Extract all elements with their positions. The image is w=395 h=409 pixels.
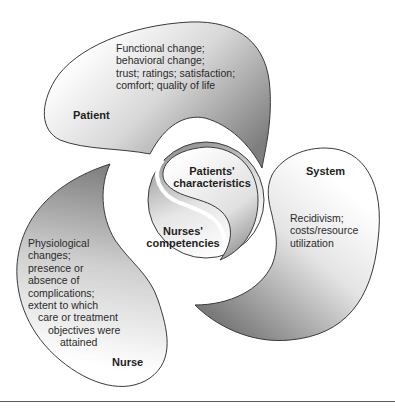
system-outcome-line: Recidivism; <box>290 212 358 224</box>
nurse-outcome-line: changes; <box>28 249 120 261</box>
bottom-rule <box>0 401 395 402</box>
system-outcome-line: costs/resource <box>290 224 358 236</box>
system-title: System <box>306 165 345 177</box>
patient-outcome-line: behavioral change; <box>116 54 235 66</box>
nurse-outcome-line: attained <box>28 336 120 348</box>
nurse-outcome-line: objectives were <box>28 324 120 336</box>
system-outcomes-text: Recidivism; costs/resource utilization <box>290 212 358 249</box>
system-outcome-line: utilization <box>290 237 358 249</box>
patient-outcome-line: trust; ratings; satisfaction; <box>116 67 235 79</box>
nurses-competencies-line2: competencies <box>133 237 233 249</box>
patients-characteristics-line1: Patients' <box>157 165 267 177</box>
nurse-outcome-line: care or treatment <box>28 311 120 323</box>
patients-characteristics-line2: characteristics <box>157 177 267 189</box>
nurse-outcomes-text: Physiological changes; presence or absen… <box>28 237 120 349</box>
patient-outcomes-text: Functional change; behavioral change; tr… <box>116 42 235 92</box>
patients-characteristics-label: Patients' characteristics <box>157 165 267 190</box>
nurse-outcome-line: absence of <box>28 274 120 286</box>
nurse-outcome-line: complications; <box>28 287 120 299</box>
patient-outcome-line: comfort; quality of life <box>116 79 235 91</box>
nurses-competencies-label: Nurses' competencies <box>133 225 233 250</box>
nurse-outcome-line: presence or <box>28 262 120 274</box>
patient-outcome-line: Functional change; <box>116 42 235 54</box>
nurses-competencies-line1: Nurses' <box>133 225 233 237</box>
patient-title: Patient <box>73 109 110 121</box>
nurse-outcome-line: extent to which <box>28 299 120 311</box>
nurse-title: Nurse <box>112 356 143 368</box>
nurse-outcome-line: Physiological <box>28 237 120 249</box>
